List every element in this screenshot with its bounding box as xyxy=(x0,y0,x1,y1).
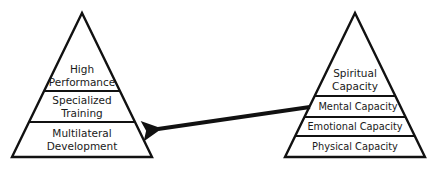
arrow-icon xyxy=(158,107,310,129)
left-pyramid: High Performance Specialized Training Mu… xyxy=(12,13,152,157)
right-tier-spiritual-capacity: Spiritual Capacity xyxy=(332,67,378,92)
tier-label: Emotional Capacity xyxy=(307,121,402,132)
tier-label: Physical Capacity xyxy=(312,141,398,152)
tier-label-line2: Development xyxy=(47,140,118,152)
connector-arrow xyxy=(158,107,310,129)
left-tier-multilateral-development: Multilateral Development xyxy=(47,127,118,152)
tier-label-line1: Specialized xyxy=(52,94,111,106)
tier-label-line1: Spiritual xyxy=(333,67,377,79)
tier-label-line2: Performance xyxy=(49,76,116,88)
tier-label-line1: Multilateral xyxy=(52,127,111,139)
tier-label-line2: Training xyxy=(60,107,102,119)
tier-label-line2: Capacity xyxy=(332,80,378,92)
tier-label: Mental Capacity xyxy=(318,101,397,112)
right-tier-physical-capacity: Physical Capacity xyxy=(312,141,398,152)
right-tier-mental-capacity: Mental Capacity xyxy=(318,101,397,112)
diagram-canvas: High Performance Specialized Training Mu… xyxy=(0,0,437,172)
right-pyramid: Spiritual Capacity Mental Capacity Emoti… xyxy=(285,13,425,157)
tier-label-line1: High xyxy=(70,63,94,75)
right-tier-emotional-capacity: Emotional Capacity xyxy=(307,121,402,132)
left-tier-high-performance: High Performance xyxy=(49,63,116,88)
left-tier-specialized-training: Specialized Training xyxy=(52,94,111,119)
